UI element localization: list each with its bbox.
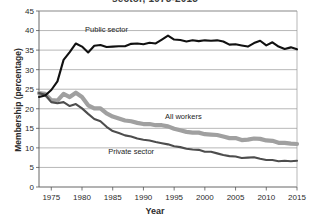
y-tick-label: 0 xyxy=(30,183,35,192)
x-tick-label: 1980 xyxy=(73,193,91,202)
x-tick-label: 2010 xyxy=(257,193,275,202)
y-tick-label: 30 xyxy=(25,66,34,75)
y-tick-label: 35 xyxy=(25,46,34,55)
x-axis-ticks: 197519801985199019952000200520102015 xyxy=(42,187,306,202)
y-tick-label: 45 xyxy=(25,7,34,16)
y-tick-label: 15 xyxy=(25,124,34,133)
series-label-private-sector: Private sector xyxy=(108,147,154,156)
y-tick-label: 10 xyxy=(25,144,34,153)
x-tick-label: 1990 xyxy=(135,193,153,202)
y-tick-label: 20 xyxy=(25,105,34,114)
union-membership-chart: sector, 1973-2015 Membership (percentage… xyxy=(0,0,310,220)
series-label-public-sector: Public sector xyxy=(85,25,128,34)
y-tick-label: 5 xyxy=(30,163,35,172)
x-tick-label: 1985 xyxy=(104,193,122,202)
x-tick-label: 1975 xyxy=(42,193,60,202)
plot-frame xyxy=(39,11,297,187)
x-tick-label: 2000 xyxy=(196,193,214,202)
x-tick-label: 1995 xyxy=(165,193,183,202)
y-tick-label: 40 xyxy=(25,26,34,35)
y-axis-ticks: 051015202530354045 xyxy=(25,7,39,192)
x-tick-label: 2015 xyxy=(288,193,306,202)
series-line-public-sector xyxy=(39,36,297,97)
y-tick-label: 25 xyxy=(25,85,34,94)
x-tick-label: 2005 xyxy=(227,193,245,202)
series-label-all-workers: All workers xyxy=(165,112,202,121)
data-series xyxy=(39,36,297,162)
plot-area: 051015202530354045 197519801985199019952… xyxy=(0,0,310,220)
